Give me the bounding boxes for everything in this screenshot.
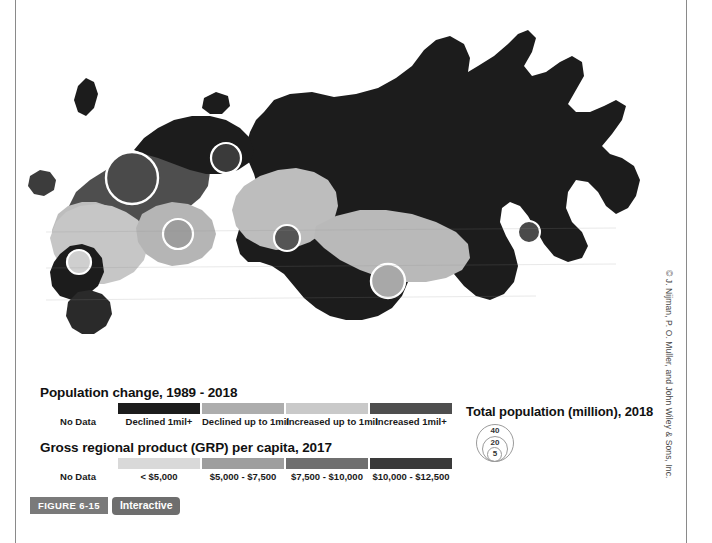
bubble-far-east[interactable] xyxy=(518,221,540,243)
label-pop-class-3: Increased up to 1mil xyxy=(286,416,368,428)
russia-choropleth-map[interactable] xyxy=(16,0,686,400)
legend-population-change-swatches xyxy=(40,403,460,414)
swatch-pop-class-2 xyxy=(202,403,284,414)
figure-caption-bar: FIGURE 6-15 Interactive xyxy=(30,497,180,515)
copyright-text: © J. Nijman, P. O. Muller, and John Wile… xyxy=(664,270,674,470)
legend-population-change: Population change, 1989 - 2018 No Data D… xyxy=(40,385,460,428)
label-pop-class-1: Declined 1mil+ xyxy=(118,416,200,428)
bubble-urals[interactable] xyxy=(163,219,193,249)
legend-population-change-title: Population change, 1989 - 2018 xyxy=(40,385,460,400)
bubble-st-petersburg[interactable] xyxy=(211,143,241,173)
legend-bubble-stack: 40 20 5 xyxy=(470,422,528,472)
label-grp-class-4: $10,000 - $12,500 xyxy=(370,471,452,483)
bubble-novosibirsk[interactable] xyxy=(371,264,405,298)
map-svg xyxy=(16,0,686,400)
legend-total-population: Total population (million), 2018 40 20 5 xyxy=(466,404,676,472)
bubble-moscow[interactable] xyxy=(106,152,158,204)
swatch-grp-class-4 xyxy=(370,458,452,469)
label-grp-class-3: $7,500 - $10,000 xyxy=(286,471,368,483)
label-pop-nodata: No Data xyxy=(40,416,116,428)
legend-bubble-label-20: 20 xyxy=(484,438,506,447)
swatch-pop-class-1 xyxy=(118,403,200,414)
label-pop-class-2: Declined up to 1mil xyxy=(202,416,284,428)
label-pop-class-4: Increased 1mil+ xyxy=(370,416,452,428)
legend-bubble-label-40: 40 xyxy=(484,426,506,435)
swatch-pop-class-3 xyxy=(286,403,368,414)
figure-page: Population change, 1989 - 2018 No Data D… xyxy=(0,0,712,543)
swatch-grp-class-2 xyxy=(202,458,284,469)
legend-population-change-labels: No Data Declined 1mil+ Declined up to 1m… xyxy=(40,416,460,428)
swatch-grp-class-3 xyxy=(286,458,368,469)
interactive-badge[interactable]: Interactive xyxy=(112,497,181,515)
label-grp-nodata: No Data xyxy=(40,471,116,483)
legend-bubble-label-5: 5 xyxy=(484,449,506,458)
legend-grp-per-capita-title: Gross regional product (GRP) per capita,… xyxy=(40,440,460,455)
label-grp-class-1: < $5,000 xyxy=(118,471,200,483)
legend-grp-labels: No Data < $5,000 $5,000 - $7,500 $7,500 … xyxy=(40,471,460,483)
figure-number-badge: FIGURE 6-15 xyxy=(30,497,108,514)
legend-grp-per-capita: Gross regional product (GRP) per capita,… xyxy=(40,440,460,483)
swatch-grp-class-1 xyxy=(118,458,200,469)
swatch-pop-nodata xyxy=(40,403,116,414)
bubble-volga-small[interactable] xyxy=(67,250,91,274)
legend-total-population-title: Total population (million), 2018 xyxy=(466,404,676,419)
swatch-pop-class-4 xyxy=(370,403,452,414)
swatch-grp-nodata xyxy=(40,458,116,469)
label-grp-class-2: $5,000 - $7,500 xyxy=(202,471,284,483)
legend-grp-swatches xyxy=(40,458,460,469)
frame-rule-right xyxy=(686,0,687,543)
bubble-krasnoyarsk[interactable] xyxy=(274,225,300,251)
